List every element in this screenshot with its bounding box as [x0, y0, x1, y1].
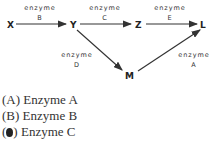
edge-label-a-word: enzyme — [178, 51, 210, 59]
edge-label-c-word: enzyme — [89, 4, 121, 12]
edge-label-d-word: enzyme — [61, 51, 93, 59]
edge-label-b-letter: B — [37, 14, 42, 22]
edge-label-a-letter: A — [191, 61, 196, 69]
option-text: Enzyme A — [23, 92, 78, 107]
option-c-selected[interactable]: () Enzyme C — [2, 124, 78, 140]
node-l: L — [200, 20, 206, 30]
node-y: Y — [69, 20, 77, 30]
option-letter: () — [2, 124, 18, 139]
option-letter: (B) — [2, 108, 19, 123]
arrow-y-m — [77, 30, 122, 70]
edge-label-c-letter: C — [102, 14, 108, 22]
option-text: Enzyme C — [21, 124, 76, 139]
pathway-diagram: X Y Z L M enzyme B enzyme C enzyme E enz… — [0, 0, 213, 90]
option-letter: (A) — [2, 92, 20, 107]
option-a[interactable]: (A) Enzyme A — [2, 92, 78, 108]
edge-label-e-letter: E — [167, 14, 172, 22]
node-m: M — [125, 71, 134, 81]
node-x: X — [7, 20, 14, 30]
node-z: Z — [135, 20, 142, 30]
option-b[interactable]: (B) Enzyme B — [2, 108, 78, 124]
answer-options: (A) Enzyme A (B) Enzyme B () Enzyme C — [2, 92, 78, 140]
filled-answer-mark-icon — [6, 128, 13, 137]
edge-label-e-word: enzyme — [154, 4, 186, 12]
option-text: Enzyme B — [23, 108, 78, 123]
edge-label-b-word: enzyme — [24, 4, 56, 12]
edge-label-d-letter: D — [74, 61, 80, 69]
